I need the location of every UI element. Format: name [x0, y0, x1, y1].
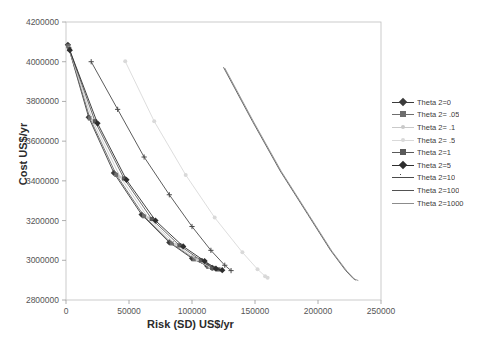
- data-marker-dot: [174, 243, 177, 246]
- legend-label: Theta 2= .05: [417, 110, 459, 119]
- y-tick-label: 3600000: [26, 136, 59, 146]
- legend-item-4[interactable]: Theta 2=1: [392, 146, 481, 159]
- plot-frame: [66, 22, 381, 300]
- data-marker-star: [240, 250, 244, 254]
- data-marker-star: [213, 216, 217, 220]
- legend-label: Theta 2=10: [417, 173, 455, 182]
- y-tick-label: 3000000: [26, 255, 59, 265]
- axes-layer: 2800000300000032000003400000360000038000…: [26, 17, 396, 316]
- data-marker-star: [152, 119, 156, 123]
- legend-label: Theta 2= .5: [417, 136, 455, 145]
- legend-marker-icon: [392, 159, 414, 171]
- legend-item-7[interactable]: Theta 2=100: [392, 184, 481, 197]
- legend-item-2[interactable]: Theta 2= .1: [392, 121, 481, 134]
- chart-container: 2800000300000032000003400000360000038000…: [0, 0, 481, 344]
- y-tick-label: 4000000: [26, 57, 59, 67]
- legend-label: Theta 2=100: [417, 186, 459, 195]
- y-tick-label: 3800000: [26, 96, 59, 106]
- data-marker-dot: [196, 258, 199, 261]
- legend-label: Theta 2=1000: [417, 199, 464, 208]
- data-marker-dot: [119, 175, 122, 178]
- y-axis-title: Cost US$/yr: [17, 84, 29, 224]
- legend-item-1[interactable]: Theta 2= .05: [392, 109, 481, 122]
- legend-label: Theta 2= .1: [417, 123, 455, 132]
- legend-marker-icon: [392, 134, 414, 146]
- x-tick-label: 250000: [367, 306, 396, 316]
- legend-item-3[interactable]: Theta 2= .5: [392, 134, 481, 147]
- data-marker-square: [114, 173, 118, 177]
- legend-marker-icon: [392, 147, 414, 159]
- legend-item-8[interactable]: Theta 2=1000: [392, 197, 481, 210]
- x-axis-title: Risk (SD) US$/yr: [0, 318, 381, 330]
- data-marker-star: [184, 173, 188, 177]
- legend-item-5[interactable]: Theta 2=5: [392, 159, 481, 172]
- y-tick-label: 3400000: [26, 176, 59, 186]
- x-tick-label: 50000: [117, 306, 141, 316]
- legend-label: Theta 2=1: [417, 148, 451, 157]
- x-tick-label: 150000: [241, 306, 270, 316]
- y-tick-label: 3200000: [26, 216, 59, 226]
- legend-marker-icon: [392, 96, 414, 108]
- data-marker-star: [256, 267, 260, 271]
- y-tick-label: 2800000: [26, 295, 59, 305]
- legend-item-0[interactable]: Theta 2=0: [392, 96, 481, 109]
- legend-label: Theta 2=0: [417, 98, 451, 107]
- x-tick-label: 200000: [304, 306, 333, 316]
- y-tick-label: 4200000: [26, 17, 59, 27]
- x-tick-label: 100000: [178, 306, 207, 316]
- x-tick-label: 0: [64, 306, 69, 316]
- data-marker-star: [123, 59, 127, 63]
- legend-marker-icon: [392, 197, 414, 209]
- legend-marker-icon: [392, 121, 414, 133]
- data-marker-dot: [147, 216, 150, 219]
- legend-marker-icon: [392, 109, 414, 121]
- chart-legend: Theta 2=0Theta 2= .05Theta 2= .1Theta 2=…: [392, 96, 481, 209]
- legend-item-6[interactable]: Theta 2=10: [392, 172, 481, 185]
- legend-marker-icon: [392, 172, 414, 184]
- legend-marker-icon: [392, 184, 414, 196]
- data-marker-star: [266, 276, 270, 280]
- legend-label: Theta 2=5: [417, 161, 451, 170]
